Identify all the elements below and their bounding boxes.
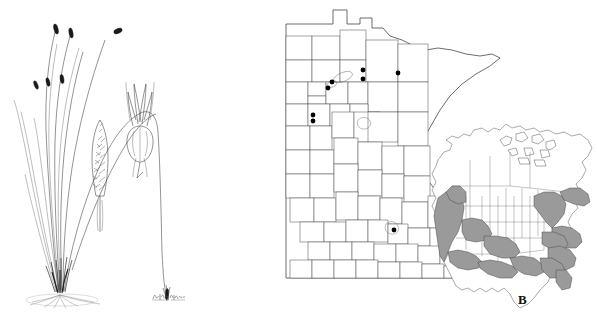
- spike-detail: [92, 120, 108, 232]
- distribution-map-svg: [250, 0, 597, 329]
- collection-dot: [326, 86, 331, 91]
- botanical-plate: B: [0, 0, 597, 329]
- perigynium-detail: [126, 82, 154, 178]
- panel-b-distribution-map: B: [250, 0, 597, 329]
- arching-culm-group: [46, 32, 105, 291]
- panel-label-b: B: [518, 292, 527, 308]
- leaf-blade-group: [14, 100, 59, 292]
- pendent-culm: [64, 112, 166, 293]
- collection-dot: [361, 68, 366, 73]
- north-america-inset: [432, 124, 592, 308]
- sedge-illustration-svg: [0, 0, 250, 329]
- collection-dot: [361, 77, 366, 82]
- collection-dot: [396, 71, 401, 76]
- artist-signature: [152, 291, 186, 303]
- collection-dot: [311, 119, 316, 124]
- panel-a-habit-illustration: [0, 0, 250, 329]
- collection-dot: [392, 228, 397, 233]
- collection-dot: [311, 113, 316, 118]
- collection-dot: [330, 80, 335, 85]
